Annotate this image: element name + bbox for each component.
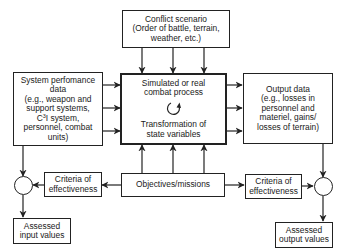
criteria-left-box: Criteria of effectiveness	[44, 172, 102, 197]
assessed-input-line-2: input values	[20, 231, 65, 240]
combat-process-header: Simulated or real combat process	[142, 79, 205, 98]
combat-process-title-2: combat process	[142, 88, 205, 97]
assessed-input-box: Assessed input values	[13, 218, 71, 244]
objectives-box: Objectives/missions	[121, 173, 225, 197]
conflict-scenario-box: Conflict scenario (Order of battle, terr…	[122, 10, 230, 48]
cycle-arrow-icon	[165, 101, 183, 117]
input-assessment-node	[14, 176, 33, 195]
combat-process-footer: Transformation of state variables	[141, 120, 206, 139]
output-assessment-node	[314, 177, 333, 196]
output-data-box: Output data (e.g., losses in personnel a…	[243, 73, 333, 144]
assessed-output-line-2: output values	[279, 235, 329, 244]
combat-process-sub-2: state variables	[141, 130, 206, 139]
criteria-right-box: Criteria of effectiveness	[245, 174, 302, 199]
criteria-right-line-2: effectiveness	[249, 187, 298, 196]
combat-process-box: Simulated or real combat process Transfo…	[120, 73, 227, 145]
system-performance-box: System perfomance data (e.g., weapon and…	[13, 72, 103, 146]
conflict-scenario-detail-2: weather, etc.)	[151, 34, 201, 43]
assessed-output-box: Assessed output values	[275, 222, 333, 248]
system-performance-detail-5: units)	[48, 133, 68, 142]
objectives-label: Objectives/missions	[136, 180, 210, 189]
output-data-detail-4: losses of terrain)	[257, 123, 319, 132]
criteria-left-line-2: effectiveness	[49, 185, 98, 194]
